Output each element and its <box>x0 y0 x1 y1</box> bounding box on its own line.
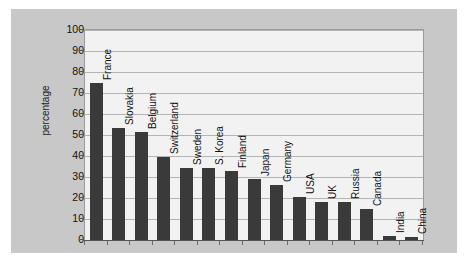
bar[interactable] <box>157 157 170 240</box>
x-axis-line <box>84 240 424 241</box>
x-tick-mark <box>197 241 198 245</box>
y-axis-title: percentage <box>40 73 51 149</box>
bar[interactable] <box>248 179 261 240</box>
x-tick-mark <box>399 241 400 245</box>
x-tick-mark <box>242 241 243 245</box>
bar[interactable] <box>225 171 238 240</box>
bars-container: FranceSlovakiaBelgiumSwitzerlandSwedenS.… <box>85 30 423 240</box>
bar[interactable] <box>180 168 193 240</box>
bar[interactable] <box>338 202 351 240</box>
x-tick-mark <box>422 241 423 245</box>
x-tick-mark <box>332 241 333 245</box>
x-tick-mark <box>264 241 265 245</box>
x-tick-mark <box>354 241 355 245</box>
x-tick-mark <box>107 241 108 245</box>
x-tick-mark <box>174 241 175 245</box>
x-tick-mark <box>309 241 310 245</box>
x-tick-mark <box>287 241 288 245</box>
bar[interactable] <box>90 83 103 241</box>
x-tick-mark <box>152 241 153 245</box>
bar[interactable] <box>293 197 306 240</box>
x-tick-mark <box>84 241 85 245</box>
bar[interactable] <box>135 132 148 240</box>
bar[interactable] <box>360 209 373 241</box>
bar[interactable] <box>112 128 125 240</box>
bar[interactable] <box>202 168 215 240</box>
x-tick-mark <box>129 241 130 245</box>
bar[interactable] <box>315 202 328 240</box>
plot-area: FranceSlovakiaBelgiumSwitzerlandSwedenS.… <box>84 29 424 241</box>
chart-figure: percentage 0102030405060708090100 France… <box>0 0 467 262</box>
bar[interactable] <box>270 185 283 240</box>
x-axis <box>84 240 424 250</box>
chart-panel: percentage 0102030405060708090100 France… <box>11 9 457 253</box>
y-axis-ticks: 0102030405060708090100 <box>50 29 84 241</box>
x-tick-mark <box>219 241 220 245</box>
x-tick-mark <box>377 241 378 245</box>
